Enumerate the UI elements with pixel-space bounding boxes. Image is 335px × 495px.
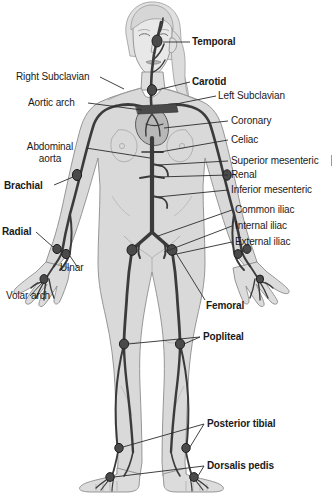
label-radial: Radial bbox=[2, 226, 31, 238]
label-internal-iliac: Internal iliac bbox=[235, 220, 287, 232]
artery-diagram-figure: Temporal Right Subclavian Carotid Left S… bbox=[0, 0, 335, 495]
label-popliteal: Popliteal bbox=[203, 331, 244, 343]
label-dorsalis-pedis: Dorsalis pedis bbox=[207, 460, 274, 472]
label-celiac: Celiac bbox=[231, 134, 258, 146]
label-abdominal-aorta-line2: aorta bbox=[39, 153, 61, 164]
label-left-subclavian: Left Subclavian bbox=[218, 90, 285, 102]
label-right-subclavian: Right Subclavian bbox=[16, 71, 89, 83]
label-aortic-arch: Aortic arch bbox=[28, 97, 75, 109]
label-posterior-tibial: Posterior tibial bbox=[207, 418, 275, 430]
label-abdominal-aorta-line1: Abdominal bbox=[27, 141, 73, 152]
label-external-iliac: External iliac bbox=[235, 236, 290, 248]
label-brachial: Brachial bbox=[4, 180, 43, 192]
label-volar-arch: Volar arch bbox=[6, 290, 50, 302]
label-temporal: Temporal bbox=[192, 36, 235, 48]
page-edge-tick bbox=[331, 155, 332, 166]
label-carotid: Carotid bbox=[192, 76, 226, 88]
label-superior-mesenteric: Superior mesenteric bbox=[231, 155, 319, 167]
label-common-iliac: Common iliac bbox=[235, 204, 294, 216]
label-femoral: Femoral bbox=[206, 300, 244, 312]
label-ulnar: Ulnar bbox=[60, 262, 83, 274]
label-inferior-mesenteric: Inferior mesenteric bbox=[231, 184, 312, 196]
label-renal: Renal bbox=[231, 169, 257, 181]
label-abdominal-aorta: Abdominal aorta bbox=[14, 141, 86, 164]
label-coronary: Coronary bbox=[231, 115, 271, 127]
